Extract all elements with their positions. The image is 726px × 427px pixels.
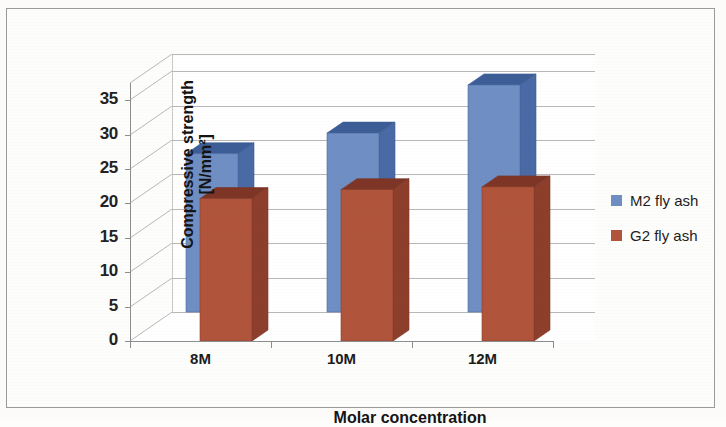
bar-side-face [252,188,268,341]
y-axis-title-line1: Compressive strength [179,49,197,279]
x-axis-title: Molar concentration [130,409,690,427]
y-axis-tick-label: 35 [78,89,118,109]
x-axis-tick [130,341,131,348]
bar-12M-g2 [482,176,550,341]
plot-area: 05101520253035 8M10M12M Compressive stre… [130,54,595,346]
chart-legend: M2 fly ash G2 fly ash [611,192,698,262]
y-axis-tick-label: 20 [78,192,118,212]
y-axis-tick-label: 30 [78,124,118,144]
bar-front-face [482,187,534,341]
x-category-label: 12M [438,350,528,367]
legend-item-g2: G2 fly ash [611,227,698,244]
x-axis-tick [553,341,554,348]
y-axis-title: Compressive strength [N/mm²] [179,49,216,279]
legend-swatch-m2 [611,195,622,206]
x-axis-tick [271,341,272,348]
bar-front-face [341,190,393,341]
x-axis-line [130,341,553,342]
x-category-label: 8M [156,350,246,367]
y-axis-tick-label: 10 [78,261,118,281]
chart-frame: 05101520253035 8M10M12M Compressive stre… [6,8,715,408]
bar-side-face [393,179,409,341]
legend-swatch-g2 [611,230,622,241]
y-axis-tick-label: 5 [78,296,118,316]
bar-10M-g2 [341,179,409,341]
bar-side-face [534,176,550,341]
x-axis-tick [412,341,413,348]
y-axis-tick-label: 0 [78,330,118,350]
y-axis-tick-label: 15 [78,227,118,247]
legend-label-g2: G2 fly ash [630,227,698,244]
y-axis-title-line2: [N/mm²] [197,49,215,279]
x-category-label: 10M [297,350,387,367]
y-axis-tick-label: 25 [78,158,118,178]
legend-item-m2: M2 fly ash [611,192,698,209]
legend-label-m2: M2 fly ash [630,192,698,209]
